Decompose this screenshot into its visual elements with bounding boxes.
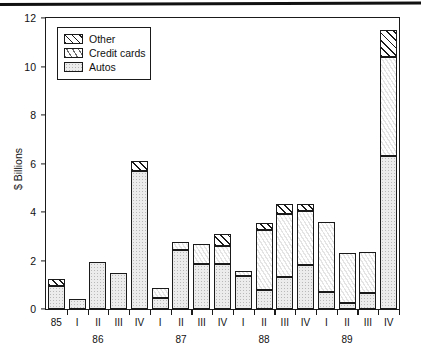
bar[interactable] bbox=[235, 271, 252, 309]
bar-segment-autos bbox=[235, 276, 252, 309]
x-axis-group-label: 88 bbox=[249, 334, 279, 345]
x-axis-tick bbox=[233, 310, 234, 315]
bar-segment-credit-cards bbox=[193, 244, 210, 265]
x-axis-tick bbox=[337, 310, 338, 315]
x-axis-tick bbox=[399, 310, 400, 315]
bar[interactable] bbox=[256, 223, 273, 309]
bar[interactable] bbox=[359, 252, 376, 309]
bar-segment-credit-cards bbox=[380, 57, 397, 156]
bar-segment-credit-cards bbox=[276, 214, 293, 277]
bar[interactable] bbox=[131, 161, 148, 309]
bar-segment-autos bbox=[256, 290, 273, 309]
bar-segment-other bbox=[297, 204, 314, 211]
x-axis-group-label: 87 bbox=[166, 334, 196, 345]
bar-segment-autos bbox=[193, 264, 210, 309]
y-axis-tick-label: 2 bbox=[14, 255, 36, 267]
x-axis-tick bbox=[171, 310, 172, 315]
y-axis-tick-label: 10 bbox=[14, 61, 36, 73]
x-axis-tick bbox=[378, 310, 379, 315]
y-axis-tick-label: 12 bbox=[14, 12, 36, 24]
x-axis-tick bbox=[357, 310, 358, 315]
bar-segment-other bbox=[380, 30, 397, 57]
bar-segment-credit-cards bbox=[339, 253, 356, 303]
bar-segment-autos bbox=[131, 171, 148, 309]
x-axis-tick bbox=[129, 310, 130, 315]
y-axis-tick-label: 8 bbox=[14, 109, 36, 121]
bar-segment-autos bbox=[110, 273, 127, 309]
legend-item-credit-cards: Credit cards bbox=[64, 46, 145, 60]
bar-segment-autos bbox=[359, 293, 376, 309]
bar[interactable] bbox=[172, 242, 189, 309]
bar[interactable] bbox=[380, 30, 397, 309]
bar-segment-autos bbox=[318, 292, 335, 309]
x-axis-tick bbox=[150, 310, 151, 315]
legend-item-other: Other bbox=[64, 32, 145, 46]
bar-segment-autos bbox=[152, 298, 169, 309]
bar-segment-other bbox=[256, 223, 273, 230]
bar-segment-autos bbox=[297, 265, 314, 309]
x-axis-tick bbox=[212, 310, 213, 315]
chart-legend: Other Credit cards Autos bbox=[57, 27, 151, 80]
bar-segment-credit-cards bbox=[318, 222, 335, 292]
bar[interactable] bbox=[297, 204, 314, 309]
bar-segment-autos bbox=[48, 286, 65, 309]
bar-segment-credit-cards bbox=[256, 230, 273, 289]
x-axis-tick bbox=[295, 310, 296, 315]
y-axis-tick-label: 4 bbox=[14, 206, 36, 218]
x-axis-tick bbox=[67, 310, 68, 315]
bar-segment-autos bbox=[380, 156, 397, 309]
bar-segment-other bbox=[276, 204, 293, 215]
x-axis-tick-label: IV bbox=[376, 317, 402, 328]
x-axis-tick bbox=[274, 310, 275, 315]
bar-segment-credit-cards bbox=[359, 252, 376, 293]
y-axis-tick-label: 0 bbox=[14, 303, 36, 315]
x-axis-group-label: 86 bbox=[83, 334, 113, 345]
x-axis-tick bbox=[191, 310, 192, 315]
bar-segment-credit-cards bbox=[214, 246, 231, 264]
bar[interactable] bbox=[110, 273, 127, 309]
x-axis-group-label: 89 bbox=[332, 334, 362, 345]
bar-segment-credit-cards bbox=[172, 242, 189, 249]
y-axis-tick-label: 6 bbox=[14, 158, 36, 170]
bar-segment-other bbox=[48, 279, 65, 286]
bar[interactable] bbox=[193, 244, 210, 309]
bar[interactable] bbox=[276, 204, 293, 309]
bar-segment-other bbox=[131, 161, 148, 171]
chart-root: $ Billions 024681012 85IIIIIIIVIIIIIIIVI… bbox=[0, 0, 421, 350]
legend-swatch-credit-cards-icon bbox=[64, 48, 83, 58]
x-axis-tick bbox=[316, 310, 317, 315]
bar-segment-autos bbox=[276, 277, 293, 309]
legend-label-credit-cards: Credit cards bbox=[89, 47, 146, 59]
legend-swatch-autos-icon bbox=[64, 62, 83, 72]
bar[interactable] bbox=[89, 262, 106, 309]
top-rule-divider bbox=[0, 1, 421, 6]
bar-segment-autos bbox=[69, 299, 86, 309]
bar-segment-autos bbox=[339, 303, 356, 309]
bar[interactable] bbox=[69, 299, 86, 309]
bar-segment-credit-cards bbox=[152, 288, 169, 298]
legend-swatch-other-icon bbox=[64, 34, 83, 44]
bar[interactable] bbox=[152, 288, 169, 309]
x-axis-tick bbox=[108, 310, 109, 315]
bar-segment-credit-cards bbox=[297, 211, 314, 266]
bar-segment-credit-cards bbox=[235, 271, 252, 276]
bar-segment-autos bbox=[89, 262, 106, 309]
bar-segment-other bbox=[214, 234, 231, 246]
bar[interactable] bbox=[48, 279, 65, 309]
legend-label-autos: Autos bbox=[89, 61, 116, 73]
bar-segment-autos bbox=[214, 264, 231, 309]
legend-item-autos: Autos bbox=[64, 60, 145, 74]
bar[interactable] bbox=[214, 234, 231, 309]
x-axis-tick bbox=[88, 310, 89, 315]
bar-segment-autos bbox=[172, 250, 189, 309]
bar[interactable] bbox=[318, 222, 335, 309]
bar[interactable] bbox=[339, 253, 356, 309]
x-axis-tick bbox=[254, 310, 255, 315]
legend-label-other: Other bbox=[89, 33, 115, 45]
